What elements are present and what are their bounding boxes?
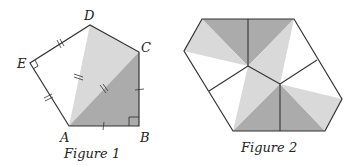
vertex-label-e: E bbox=[16, 56, 27, 71]
figure-1-caption: Figure 1 bbox=[63, 146, 120, 161]
double-tick-ea-icon bbox=[44, 94, 53, 101]
figure-1: D C E A B Figure 1 bbox=[16, 8, 151, 161]
figure-2: Figure 2 bbox=[184, 19, 342, 155]
vertex-label-b: B bbox=[139, 130, 150, 145]
right-angle-e-icon bbox=[33, 60, 38, 69]
vertex-label-a: A bbox=[59, 130, 69, 145]
diagram-canvas: D C E A B Figure 1 Figure 2 bbox=[0, 0, 358, 165]
vertex-label-d: D bbox=[83, 8, 95, 23]
vertex-label-c: C bbox=[141, 40, 151, 55]
figure-2-caption: Figure 2 bbox=[240, 140, 297, 155]
